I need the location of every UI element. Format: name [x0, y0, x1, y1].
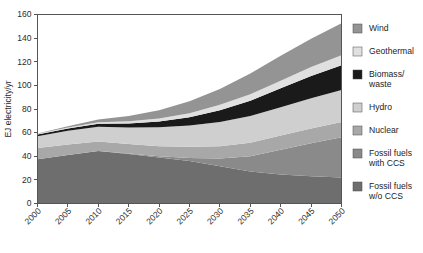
y-tick-label: 160 — [17, 9, 31, 19]
legend-label: Nuclear — [369, 125, 399, 135]
y-tick-label: 60 — [22, 127, 32, 137]
legend-label: Geothermal — [369, 46, 414, 56]
legend-label: Wind — [369, 23, 389, 33]
y-tick-label: 40 — [22, 151, 32, 161]
y-tick-label: 120 — [17, 57, 31, 67]
legend-swatch — [353, 47, 362, 56]
legend-swatch — [353, 24, 362, 33]
stacked-area-chart: 020406080100120140160 200020052010201520… — [0, 0, 423, 253]
legend-swatch — [353, 103, 362, 112]
y-tick-label: 140 — [17, 33, 31, 43]
y-tick-label: 100 — [17, 80, 31, 90]
y-tick-label: 20 — [22, 175, 32, 185]
legend-swatch — [353, 126, 362, 135]
y-tick-label: 80 — [22, 104, 32, 114]
y-axis-title: EJ electricity/yr — [3, 80, 13, 137]
legend-swatch — [353, 149, 362, 158]
legend-swatch — [353, 70, 362, 79]
legend-swatch — [353, 182, 362, 191]
y-tick-label: 0 — [27, 198, 32, 208]
legend-label: Hydro — [369, 102, 392, 112]
